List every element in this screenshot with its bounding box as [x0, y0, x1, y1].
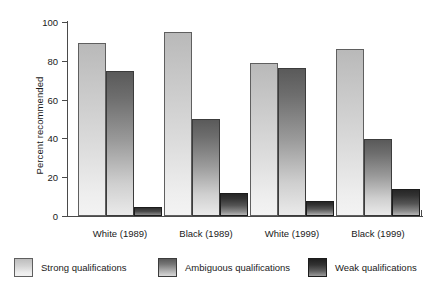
- legend-item-strong[interactable]: Strong qualifications: [14, 258, 127, 277]
- y-tick-80: [62, 61, 67, 62]
- legend-label-1: Ambiguous qualifications: [185, 262, 290, 273]
- bar-black-1989-strong: [164, 32, 192, 216]
- legend-label-0: Strong qualifications: [41, 262, 127, 273]
- bar-white-1989-strong: [78, 43, 106, 216]
- legend-swatch-icon-strong: [14, 258, 33, 277]
- y-tick-label-80: 80: [28, 55, 58, 66]
- bar-white-1989-ambiguous: [106, 71, 134, 217]
- y-tick-label-100: 100: [28, 17, 58, 28]
- bar-black-1999-ambiguous: [364, 139, 392, 216]
- y-tick-label-0: 0: [28, 211, 58, 222]
- bar-white-1999-strong: [250, 63, 278, 216]
- bar-black-1999-strong: [336, 49, 364, 216]
- x-category-label-2: White (1999): [265, 228, 319, 239]
- x-axis-line: [67, 216, 423, 217]
- bar-black-1989-weak: [220, 193, 248, 216]
- y-tick-label-40: 40: [28, 133, 58, 144]
- plot-area: [68, 22, 422, 216]
- bar-chart: Percent recommended 020406080100 White (…: [0, 0, 445, 294]
- y-tick-label-20: 20: [28, 172, 58, 183]
- y-tick-0: [62, 216, 67, 217]
- bar-black-1989-ambiguous: [192, 119, 220, 216]
- y-tick-20: [62, 177, 67, 178]
- legend-swatch-icon-ambiguous: [158, 258, 177, 277]
- bar-black-1999-weak: [392, 189, 420, 216]
- bar-white-1989-weak: [134, 207, 162, 216]
- y-tick-100: [62, 22, 67, 23]
- legend-item-weak[interactable]: Weak qualifications: [308, 258, 417, 277]
- y-tick-label-60: 60: [28, 94, 58, 105]
- y-tick-40: [62, 138, 67, 139]
- legend-label-2: Weak qualifications: [335, 262, 417, 273]
- legend-item-ambiguous[interactable]: Ambiguous qualifications: [158, 258, 290, 277]
- y-tick-60: [62, 100, 67, 101]
- x-category-label-1: Black (1989): [179, 228, 232, 239]
- x-category-label-3: Black (1999): [351, 228, 404, 239]
- x-category-label-0: White (1989): [93, 228, 147, 239]
- legend-swatch-icon-weak: [308, 258, 327, 277]
- chart-legend: Strong qualificationsAmbiguous qualifica…: [0, 258, 445, 288]
- bar-white-1999-ambiguous: [278, 68, 306, 216]
- bar-white-1999-weak: [306, 201, 334, 216]
- y-axis-ticks: 020406080100: [0, 0, 67, 216]
